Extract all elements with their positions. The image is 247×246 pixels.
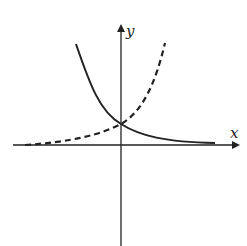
- solid-decreasing-curve: [76, 44, 215, 143]
- x-axis-label: x: [230, 124, 239, 142]
- exponential-graph: y x: [0, 0, 247, 246]
- y-axis-label: y: [125, 22, 135, 40]
